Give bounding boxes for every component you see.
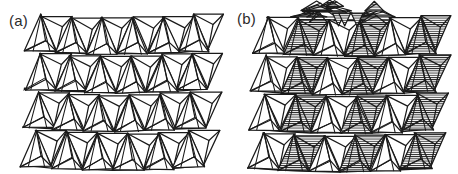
tetrahedral-framework-unshaded [0,0,229,174]
tetrahedral-framework-hatched [229,0,458,174]
panel-a-drawing [0,0,229,174]
figure-container: (a) (b) [0,0,458,174]
panel-a: (a) [0,0,229,174]
panel-b-drawing [229,0,458,174]
panel-b: (b) [229,0,458,174]
